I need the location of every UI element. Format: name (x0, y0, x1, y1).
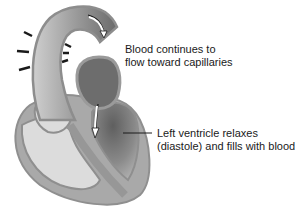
left-atrium (77, 57, 120, 108)
label-line: Blood continues to (125, 43, 233, 56)
recoil-arrows-outer-icon (17, 32, 32, 70)
heart-body (15, 95, 149, 205)
left-ventricle-label: Left ventricle relaxes (diastole) and fi… (157, 127, 295, 153)
label-line: (diastole) and fills with blood (157, 140, 295, 153)
aorta-flow-label: Blood continues to flow toward capillari… (125, 43, 233, 69)
label-line: Left ventricle relaxes (157, 127, 295, 140)
label-line: flow toward capillaries (125, 56, 233, 69)
heart-diagram (0, 0, 295, 212)
